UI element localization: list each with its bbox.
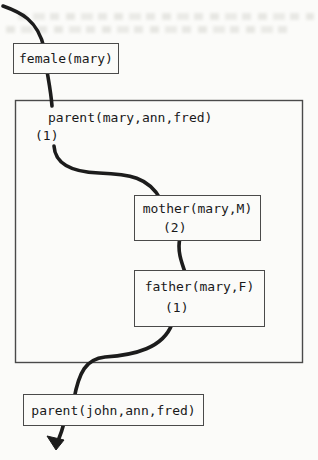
arrowhead <box>47 436 64 450</box>
node-female: female(mary) <box>13 43 119 74</box>
diagram-canvas: female(mary) parent(mary,ann,fred) (1) m… <box>0 0 318 460</box>
node-father-annotation: (1) <box>135 297 264 318</box>
flow-segment-parent-to-mother <box>54 146 161 200</box>
node-parent-john-label: parent(john,ann,fred) <box>31 403 195 418</box>
node-parent-john: parent(john,ann,fred) <box>23 394 204 426</box>
node-mother: mother(mary,M) (2) <box>134 195 261 241</box>
node-father-label: father(mary,F) <box>135 276 264 297</box>
node-mother-label: mother(mary,M) <box>135 199 260 218</box>
node-mother-annotation: (2) <box>135 218 260 237</box>
parent-clause-label: parent(mary,ann,fred) <box>48 111 212 125</box>
node-female-label: female(mary) <box>19 51 113 66</box>
node-father: father(mary,F) (1) <box>134 270 265 327</box>
flow-segment-father-to-parentjohn <box>74 324 172 399</box>
flow-segment-entry <box>3 6 44 48</box>
parent-clause-annotation: (1) <box>35 129 58 143</box>
